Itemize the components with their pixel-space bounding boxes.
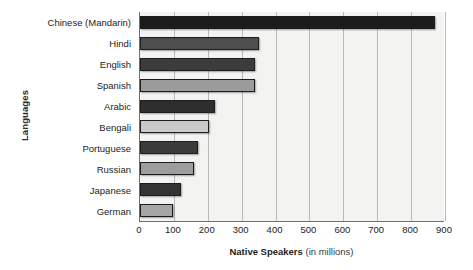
x-axis-tick-label: 800 [402, 224, 418, 235]
category-label-list: Chinese (Mandarin)HindiEnglishSpanishAra… [36, 12, 136, 222]
category-label: German [36, 201, 136, 222]
bar-row [140, 117, 444, 138]
x-axis-tick-label: 500 [301, 224, 317, 235]
bar-row [140, 96, 444, 117]
bar [140, 162, 194, 175]
x-axis-title-light: (in millions) [306, 246, 354, 257]
category-label: Russian [36, 159, 136, 180]
bar-row [140, 137, 444, 158]
bar-row [140, 12, 444, 33]
x-axis-tick-label: 900 [436, 224, 452, 235]
x-axis-tick-label: 600 [334, 224, 350, 235]
x-axis-tick-label: 200 [199, 224, 215, 235]
category-label: Japanese [36, 180, 136, 201]
bar [140, 16, 435, 29]
x-axis-tick-label: 300 [233, 224, 249, 235]
bar-row [140, 33, 444, 54]
bar-row [140, 54, 444, 75]
bar [140, 37, 259, 50]
x-axis-title: Native Speakers (in millions) [139, 246, 444, 257]
bar-series [140, 12, 444, 221]
category-label: Arabic [36, 96, 136, 117]
x-axis-tick-label: 0 [136, 224, 141, 235]
gridline [445, 12, 446, 221]
x-axis-title-strong: Native Speakers [229, 246, 302, 257]
x-axis-tick-labels: 0100200300400500600700800900 [139, 224, 444, 238]
category-label: Hindi [36, 33, 136, 54]
x-axis-tick-label: 700 [368, 224, 384, 235]
category-label: Spanish [36, 75, 136, 96]
bar [140, 120, 209, 133]
category-label: Portuguese [36, 138, 136, 159]
bar [140, 141, 198, 154]
bar-row [140, 75, 444, 96]
bar-row [140, 179, 444, 200]
bar [140, 204, 173, 217]
category-label: Bengali [36, 117, 136, 138]
bar-row [140, 158, 444, 179]
bar-row [140, 200, 444, 221]
y-axis-title-text: Languages [20, 89, 31, 140]
category-label: Chinese (Mandarin) [36, 12, 136, 33]
x-axis-tick-label: 100 [165, 224, 181, 235]
y-axis-title: Languages [13, 0, 37, 230]
x-axis-tick-label: 400 [267, 224, 283, 235]
bar [140, 183, 181, 196]
bar [140, 58, 255, 71]
bar [140, 100, 215, 113]
category-label: English [36, 54, 136, 75]
plot-area [139, 12, 444, 222]
bar-chart-figure: Languages Chinese (Mandarin)HindiEnglish… [0, 0, 473, 270]
bar [140, 79, 255, 92]
